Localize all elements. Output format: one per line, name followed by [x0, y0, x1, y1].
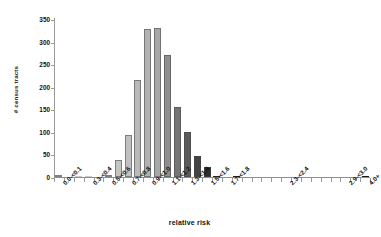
y-axis-tick-mark — [51, 155, 54, 156]
x-axis-tick-label: 4.0+ — [368, 173, 381, 186]
y-axis-tick-mark — [51, 88, 54, 89]
y-axis-tick-labels: 050100150200250300350 — [22, 0, 50, 200]
plot-area — [54, 20, 370, 178]
bar — [174, 107, 181, 177]
bar — [154, 28, 161, 177]
y-axis-tick-mark — [51, 65, 54, 66]
bar — [164, 55, 171, 177]
bar — [55, 175, 62, 177]
x-axis-title: relative risk — [0, 219, 379, 226]
y-axis-tick-label: 300 — [22, 39, 50, 45]
bar-series — [54, 20, 370, 177]
y-axis-tick-label: 50 — [22, 152, 50, 158]
bar — [144, 29, 151, 177]
y-axis-tick-mark — [51, 20, 54, 21]
y-axis-tick-label: 200 — [22, 85, 50, 91]
y-axis-tick-label: 100 — [22, 130, 50, 136]
x-axis-tick-labels: 0.0-<0.10.3-<0.40.5-<0.60.7-<0.80.9-<1.0… — [54, 180, 370, 218]
bar — [134, 80, 141, 177]
y-axis-title: # census tracts — [9, 0, 23, 178]
y-axis-title-text: # census tracts — [13, 65, 20, 112]
y-axis-tick-label: 250 — [22, 62, 50, 68]
y-axis-tick-label: 350 — [22, 17, 50, 23]
bar — [85, 176, 92, 177]
y-axis-tick-label: 150 — [22, 107, 50, 113]
y-axis-tick-mark — [51, 133, 54, 134]
y-axis-tick-mark — [51, 43, 54, 44]
y-axis-tick-label: 0 — [22, 175, 50, 181]
y-axis-tick-mark — [51, 110, 54, 111]
